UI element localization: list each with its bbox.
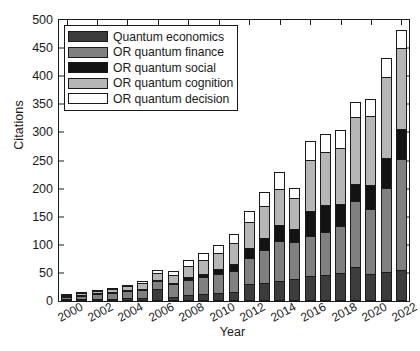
- legend-item[interactable]: OR quantum finance: [68, 45, 233, 61]
- bar[interactable]: [168, 267, 179, 301]
- bar-segment: [213, 293, 224, 301]
- y-tick-label: 450: [32, 41, 53, 55]
- bar[interactable]: [381, 54, 392, 301]
- bar[interactable]: [320, 130, 331, 301]
- legend-item[interactable]: OR quantum social: [68, 60, 233, 76]
- y-tick-mark: [59, 272, 64, 273]
- y-tick-label: 100: [32, 238, 53, 252]
- bar-segment: [274, 225, 285, 242]
- x-tick-mark: [249, 20, 250, 25]
- bar-segment: [305, 141, 316, 161]
- bar-segment: [335, 226, 346, 274]
- y-tick-label: 300: [32, 125, 53, 139]
- bar-segment: [107, 299, 118, 301]
- legend-label: Quantum economics: [113, 30, 224, 44]
- bar-segment: [259, 238, 270, 251]
- bar-segment: [320, 232, 331, 276]
- bar-segment: [274, 172, 285, 190]
- bar-segment: [289, 242, 300, 279]
- bar[interactable]: [396, 26, 407, 301]
- x-tick-label: 2012: [237, 300, 267, 325]
- bar-segment: [92, 299, 103, 301]
- plot-area: 050100150200250300350400450500 200020022…: [58, 19, 410, 302]
- bar-segment: [396, 30, 407, 50]
- bar[interactable]: [61, 293, 72, 301]
- bar-segment: [259, 250, 270, 284]
- bar-segment: [350, 117, 361, 184]
- bar[interactable]: [213, 241, 224, 301]
- bar-segment: [365, 274, 376, 301]
- y-tick-label: 0: [46, 294, 53, 308]
- bar[interactable]: [305, 137, 316, 301]
- x-tick-label: 2010: [207, 300, 237, 325]
- bar[interactable]: [198, 249, 209, 301]
- bar-segment: [305, 160, 316, 212]
- bar-segment: [274, 241, 285, 281]
- legend-item[interactable]: OR quantum cognition: [68, 76, 233, 92]
- bar-segment: [396, 129, 407, 160]
- bar[interactable]: [122, 281, 133, 301]
- x-tick-label: 2000: [55, 300, 85, 325]
- y-tick-label: 50: [39, 266, 53, 280]
- y-tick-mark: [59, 132, 64, 133]
- x-tick-label: 2004: [116, 300, 146, 325]
- bar-segment: [168, 284, 179, 297]
- bar[interactable]: [274, 168, 285, 301]
- y-axis-title: Citations: [12, 80, 26, 170]
- legend-swatch-icon: [68, 62, 108, 73]
- bar[interactable]: [107, 285, 118, 301]
- bar-segment: [320, 275, 331, 301]
- x-axis-title: Year: [55, 325, 410, 339]
- bar[interactable]: [335, 126, 346, 301]
- bar[interactable]: [229, 230, 240, 301]
- y-tick-label: 500: [32, 13, 53, 27]
- x-tick-mark: [280, 20, 281, 25]
- bar-segment: [381, 188, 392, 272]
- chart-legend: Quantum economicsOR quantum financeOR qu…: [64, 25, 238, 111]
- x-tick-label: 2016: [298, 300, 328, 325]
- bar-segment: [274, 189, 285, 226]
- x-tick-label: 2018: [329, 300, 359, 325]
- bar[interactable]: [137, 277, 148, 301]
- bar[interactable]: [152, 267, 163, 301]
- bar-segment: [335, 204, 346, 226]
- bar-segment: [274, 281, 285, 301]
- x-tick-label: 2002: [85, 300, 115, 325]
- bar[interactable]: [365, 95, 376, 301]
- bar[interactable]: [76, 291, 87, 301]
- y-tick-label: 200: [32, 182, 53, 196]
- bar-segment: [365, 116, 376, 186]
- legend-label: OR quantum cognition: [113, 76, 233, 90]
- y-tick-label: 350: [32, 97, 53, 111]
- bar-segment: [289, 229, 300, 244]
- y-tick-mark: [59, 216, 64, 217]
- bar[interactable]: [183, 256, 194, 301]
- bar-segment: [381, 58, 392, 78]
- bar-segment: [381, 158, 392, 189]
- y-tick-mark: [59, 244, 64, 245]
- x-tick-label: 2006: [146, 300, 176, 325]
- bar-segment: [289, 279, 300, 301]
- bar-segment: [335, 130, 346, 149]
- x-tick-mark: [371, 20, 372, 25]
- bar[interactable]: [92, 287, 103, 301]
- bar[interactable]: [289, 184, 300, 301]
- bar-segment: [381, 77, 392, 159]
- bar-segment: [396, 48, 407, 129]
- bar-segment: [289, 198, 300, 229]
- legend-item[interactable]: OR quantum decision: [68, 91, 233, 107]
- legend-swatch-icon: [68, 47, 108, 58]
- bar-segment: [365, 185, 376, 210]
- bar-segment: [320, 152, 331, 206]
- bar[interactable]: [259, 187, 270, 301]
- legend-item[interactable]: Quantum economics: [68, 29, 233, 45]
- bar-segment: [335, 148, 346, 205]
- bar-segment: [305, 236, 316, 278]
- bar-segment: [198, 260, 209, 275]
- bar-segment: [198, 294, 209, 301]
- bar[interactable]: [350, 98, 361, 301]
- x-tick-label: 2008: [177, 300, 207, 325]
- bar-segment: [76, 299, 87, 301]
- bar[interactable]: [244, 207, 255, 301]
